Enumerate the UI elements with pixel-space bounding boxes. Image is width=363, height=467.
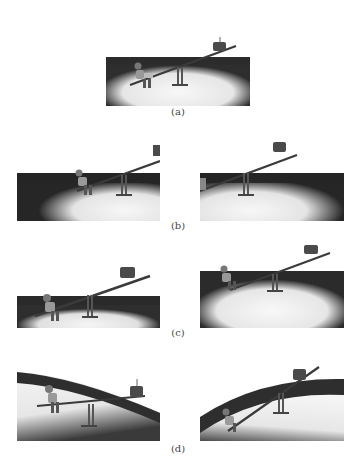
seesaw-scene-image	[17, 240, 160, 328]
panel-a	[106, 15, 250, 106]
panel-d-right	[200, 355, 344, 441]
panel-b-left	[17, 133, 160, 221]
caption-d: (d)	[163, 443, 193, 455]
panel-c-left	[17, 240, 160, 328]
seesaw-scene-image	[200, 355, 344, 441]
panel-b-right	[200, 133, 344, 221]
panel-d-left	[17, 355, 160, 441]
caption-a: (a)	[163, 106, 193, 118]
caption-b: (b)	[163, 220, 193, 232]
seesaw-scene-image	[200, 240, 344, 328]
panel-c-right	[200, 240, 344, 328]
caption-c: (c)	[163, 327, 193, 339]
seesaw-scene-image	[17, 355, 160, 441]
seesaw-scene-image	[200, 133, 344, 221]
seesaw-scene-image	[17, 133, 160, 221]
seesaw-scene-image	[106, 15, 250, 106]
